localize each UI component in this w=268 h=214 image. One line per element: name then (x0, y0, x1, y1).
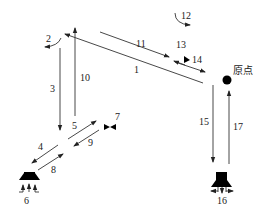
path-14-arrow-back (174, 61, 185, 65)
right-station-16-icon (211, 172, 233, 193)
path-11-arrow (100, 32, 169, 57)
label-10: 10 (80, 72, 90, 83)
label-5: 5 (72, 120, 77, 131)
origin-point-icon (223, 76, 232, 85)
valve-7-icon (104, 124, 116, 130)
origin-label: 原点 (233, 65, 253, 76)
label-3: 3 (50, 83, 55, 94)
label-13: 13 (176, 39, 186, 50)
path-4-arrow (32, 145, 58, 163)
label-16: 16 (217, 195, 227, 206)
label-7: 7 (115, 111, 120, 122)
label-12: 12 (181, 10, 191, 21)
label-14: 14 (192, 54, 202, 65)
label-9: 9 (88, 137, 93, 148)
label-2: 2 (46, 33, 51, 44)
label-6: 6 (24, 195, 29, 206)
flag-14-icon (184, 56, 190, 63)
label-11: 11 (136, 38, 146, 49)
label-8: 8 (51, 164, 56, 175)
motion-diagram: 1 11 2 3 10 12 13 14 原点 15 17 16 5 9 (0, 0, 268, 214)
label-1: 1 (134, 64, 139, 75)
label-17: 17 (233, 121, 243, 132)
label-15: 15 (199, 116, 209, 127)
left-station-6-icon (19, 172, 40, 192)
label-4: 4 (38, 141, 43, 152)
